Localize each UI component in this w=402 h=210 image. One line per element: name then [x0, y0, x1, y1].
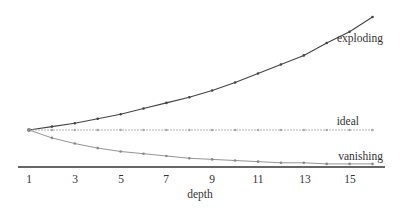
x-tick-9: 9 — [209, 173, 215, 185]
data-point — [119, 129, 122, 132]
data-point — [96, 117, 99, 120]
data-point — [27, 128, 31, 132]
data-point — [280, 129, 283, 132]
data-point — [325, 42, 328, 45]
data-point — [51, 137, 54, 140]
x-tick-13: 13 — [299, 173, 311, 185]
series-vanishing — [27, 128, 374, 165]
line-chart: 1 3 5 7 9 11 13 15 depth exploding ideal… — [0, 0, 402, 210]
data-point — [188, 157, 191, 160]
data-point — [303, 161, 306, 164]
data-point — [119, 113, 122, 116]
series-layer — [27, 16, 374, 166]
data-point — [96, 129, 99, 132]
x-tick-3: 3 — [72, 173, 78, 185]
x-tick-5: 5 — [118, 173, 124, 185]
data-point — [371, 163, 374, 166]
data-point — [188, 96, 191, 99]
x-axis-label: depth — [187, 188, 213, 201]
data-point — [142, 129, 145, 132]
data-point — [211, 158, 214, 161]
line-exploding — [29, 17, 373, 130]
data-point — [51, 129, 54, 132]
data-point — [165, 102, 168, 105]
data-point — [303, 129, 306, 132]
data-point — [142, 152, 145, 155]
line-vanishing — [29, 130, 373, 164]
data-point — [257, 129, 260, 132]
series-exploding — [27, 16, 374, 132]
data-point — [234, 129, 237, 132]
label-exploding: exploding — [337, 32, 383, 45]
data-point — [325, 129, 328, 132]
series-ideal — [27, 128, 374, 132]
data-point — [348, 163, 351, 166]
label-ideal: ideal — [337, 115, 359, 127]
data-point — [371, 16, 374, 19]
x-tick-1: 1 — [26, 173, 32, 185]
data-point — [74, 129, 77, 132]
data-point — [280, 63, 283, 66]
data-point — [280, 161, 283, 164]
data-point — [165, 129, 168, 132]
data-point — [234, 159, 237, 162]
data-point — [257, 160, 260, 163]
data-point — [348, 129, 351, 132]
data-point — [74, 122, 77, 125]
data-point — [74, 142, 77, 145]
x-tick-15: 15 — [344, 173, 356, 185]
x-tick-labels: 1 3 5 7 9 11 13 15 — [26, 173, 356, 185]
data-point — [188, 129, 191, 132]
data-point — [371, 129, 374, 132]
data-point — [211, 129, 214, 132]
data-point — [211, 89, 214, 92]
data-point — [303, 54, 306, 57]
data-point — [234, 81, 237, 84]
label-vanishing: vanishing — [338, 150, 383, 163]
data-point — [96, 147, 99, 150]
x-tick-11: 11 — [252, 173, 263, 185]
x-tick-7: 7 — [163, 173, 169, 185]
data-point — [325, 163, 328, 166]
data-point — [119, 150, 122, 153]
data-point — [257, 72, 260, 75]
data-point — [142, 107, 145, 110]
data-point — [51, 125, 54, 128]
data-point — [165, 155, 168, 158]
